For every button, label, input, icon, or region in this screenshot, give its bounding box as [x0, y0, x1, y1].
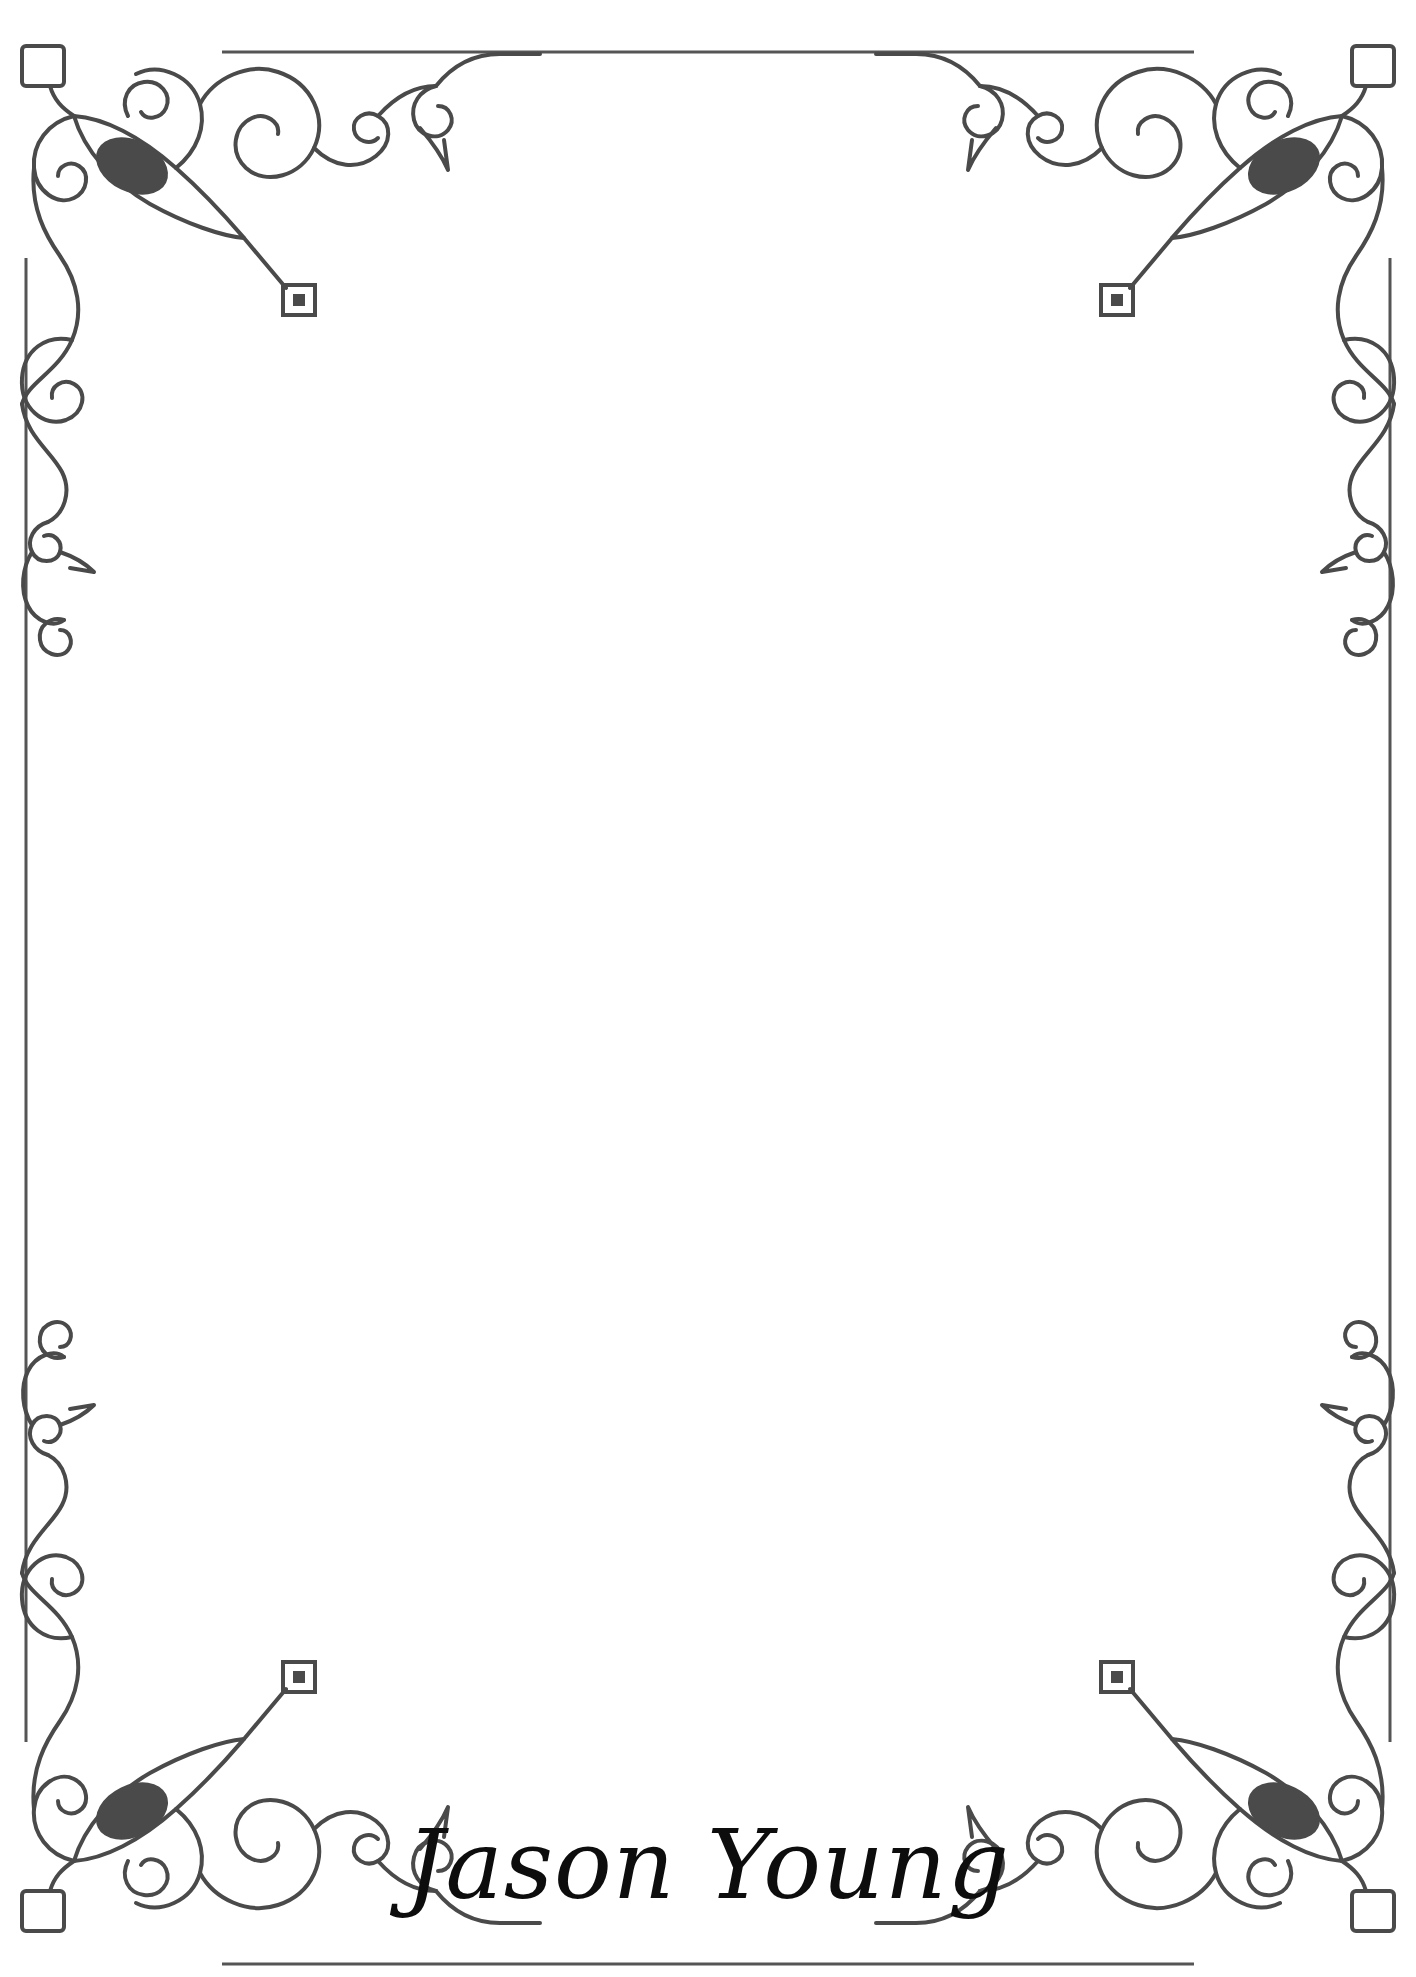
stationery-page: Jason Young — [0, 0, 1416, 1977]
blank-writing-area[interactable] — [60, 90, 1356, 1770]
